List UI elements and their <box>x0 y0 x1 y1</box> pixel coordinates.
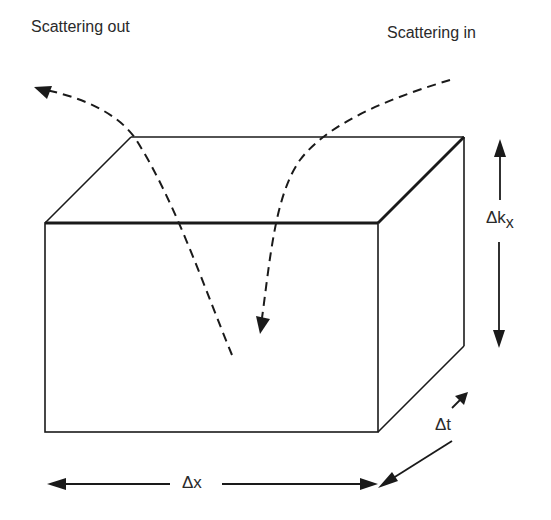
delta-t-label: Δt <box>435 415 451 435</box>
delta-kx-main: Δk <box>486 208 506 227</box>
delta-kx-subscript: x <box>506 214 514 231</box>
delta-t-arrow <box>378 392 468 488</box>
box-top-face <box>45 137 464 223</box>
delta-kx-arrow <box>493 139 506 348</box>
scattering-in-curve <box>262 80 450 318</box>
phase-space-box-diagram <box>0 0 551 520</box>
box-front-face <box>45 223 378 432</box>
delta-kx-label: Δkx <box>486 208 514 228</box>
scattering-out-curve <box>36 88 232 355</box>
delta-x-label: Δx <box>182 473 202 493</box>
scattering-out-arrowhead-icon <box>34 86 52 99</box>
delta-x-arrow <box>47 478 378 490</box>
scattering-in-label: Scattering in <box>387 24 476 42</box>
scattering-out-label: Scattering out <box>31 18 130 36</box>
scattering-in-arrowhead-icon <box>256 316 270 334</box>
